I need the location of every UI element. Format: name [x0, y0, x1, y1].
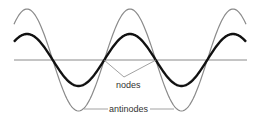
nodes-label: nodes [116, 80, 141, 90]
nodes-leader-lines [104, 60, 156, 77]
standing-wave-diagram: nodes antinodes [0, 0, 259, 122]
antinodes-label: antinodes [109, 104, 149, 114]
